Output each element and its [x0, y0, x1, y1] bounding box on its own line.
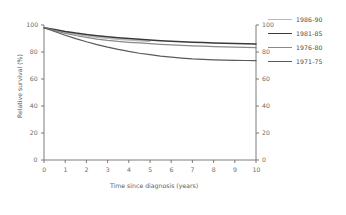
- x-axis-tick-label: 5: [148, 166, 152, 173]
- y-axis-tick-label: 60: [30, 75, 38, 82]
- legend-label: 1976-80: [296, 44, 323, 51]
- legend-label: 1971-75: [296, 58, 323, 65]
- legend-item[interactable]: 1976-80: [268, 40, 344, 54]
- chart-legend: 1986-90 1981-85 1976-80 1971-75: [268, 12, 344, 68]
- y-axis-tick-label-right: 0: [262, 156, 266, 163]
- x-axis-tick-label: 10: [252, 166, 260, 173]
- y-axis-tick-label-right: 100: [262, 21, 274, 28]
- x-axis-title: Time since diagnosis (years): [110, 182, 198, 189]
- legend-item[interactable]: 1986-90: [268, 12, 344, 26]
- y-axis-tick-label: 0: [33, 156, 37, 163]
- y-axis-tick-label: 100: [26, 21, 38, 28]
- y-axis-tick-label: 20: [30, 129, 38, 136]
- chart-container: Relative survival (%) Time since diagnos…: [0, 0, 346, 215]
- x-axis-tick-label: 7: [191, 166, 195, 173]
- x-axis-tick-label: 9: [233, 166, 237, 173]
- x-axis-tick-label: 3: [106, 166, 110, 173]
- legend-item[interactable]: 1971-75: [268, 54, 344, 68]
- series-line-1976-80: [44, 28, 256, 48]
- legend-swatch-icon: [268, 19, 292, 20]
- y-axis-tick-label-right: 40: [262, 102, 270, 109]
- legend-swatch-icon: [268, 47, 292, 48]
- legend-swatch-icon: [268, 61, 292, 62]
- y-axis-title: Relative survival (%): [16, 54, 23, 118]
- legend-label: 1986-90: [296, 16, 323, 23]
- x-axis-tick-label: 0: [42, 166, 46, 173]
- y-axis-tick-label-right: 80: [262, 48, 270, 55]
- legend-swatch-icon: [268, 33, 292, 34]
- y-axis-tick-label: 40: [30, 102, 38, 109]
- legend-item[interactable]: 1981-85: [268, 26, 344, 40]
- legend-label: 1981-85: [296, 30, 323, 37]
- x-axis-tick-label: 4: [127, 166, 131, 173]
- y-axis-tick-label: 80: [30, 48, 38, 55]
- x-axis-tick-label: 2: [85, 166, 89, 173]
- y-axis-tick-label-right: 20: [262, 129, 270, 136]
- x-axis-tick-label: 6: [169, 166, 173, 173]
- x-axis-tick-label: 8: [212, 166, 216, 173]
- y-axis-tick-label-right: 60: [262, 75, 270, 82]
- x-axis-tick-label: 1: [63, 166, 67, 173]
